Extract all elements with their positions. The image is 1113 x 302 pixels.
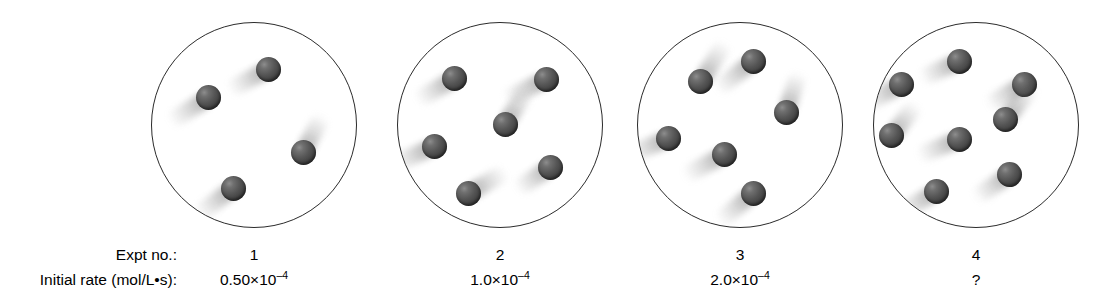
- vessel-interior: [398, 23, 602, 227]
- particle-sphere: [196, 85, 221, 110]
- particle-sphere: [493, 112, 518, 137]
- particle-sphere: [947, 127, 972, 152]
- reaction-vessel-3: [637, 22, 843, 228]
- figure-canvas: Expt no.: 1234 Initial rate (mol/L•s): 0…: [0, 0, 1113, 302]
- particle-sphere: [688, 69, 713, 94]
- reaction-vessel-1: [151, 22, 357, 228]
- rate-exponent: –4: [518, 269, 530, 281]
- reaction-vessel-4: [873, 22, 1079, 228]
- particle-sphere: [534, 67, 559, 92]
- particle-sphere: [924, 179, 949, 204]
- initial-rate-value: 1.0×10–4: [420, 268, 580, 292]
- reaction-vessel-2: [397, 22, 603, 228]
- particle-sphere: [947, 49, 972, 74]
- vessel-interior: [152, 23, 356, 227]
- initial-rate-row: Initial rate (mol/L•s): 0.50×10–41.0×10–…: [0, 268, 1113, 292]
- vessel-interior: [638, 23, 842, 227]
- particle-sphere: [422, 134, 447, 159]
- expt-no-value: 2: [420, 243, 580, 267]
- particle-sphere: [291, 140, 316, 165]
- initial-rate-value: ?: [896, 268, 1056, 292]
- particle-sphere: [993, 107, 1018, 132]
- particle-sphere: [456, 181, 481, 206]
- expt-no-row: Expt no.: 1234: [0, 243, 1113, 267]
- expt-no-row-label: Expt no.:: [116, 243, 177, 267]
- particle-sphere: [879, 123, 904, 148]
- vessel-interior: [874, 23, 1078, 227]
- particle-sphere: [997, 162, 1022, 187]
- initial-rate-value: 0.50×10–4: [174, 268, 334, 292]
- particle-sphere: [741, 181, 766, 206]
- particle-sphere: [712, 142, 737, 167]
- particle-sphere: [741, 49, 766, 74]
- rate-exponent: –4: [758, 269, 770, 281]
- particle-sphere: [442, 66, 467, 91]
- particle-sphere: [538, 155, 563, 180]
- particle-sphere: [221, 176, 246, 201]
- particle-sphere: [889, 72, 914, 97]
- rate-mantissa: 2.0×10: [710, 271, 758, 288]
- expt-no-value: 1: [174, 243, 334, 267]
- initial-rate-value: 2.0×10–4: [660, 268, 820, 292]
- rate-mantissa: 0.50×10: [220, 271, 276, 288]
- particle-sphere: [656, 126, 681, 151]
- initial-rate-row-label: Initial rate (mol/L•s):: [40, 268, 177, 292]
- particle-sphere: [256, 57, 281, 82]
- particle-sphere: [774, 100, 799, 125]
- rate-exponent: –4: [276, 269, 288, 281]
- rate-mantissa: 1.0×10: [470, 271, 518, 288]
- expt-no-value: 3: [660, 243, 820, 267]
- expt-no-value: 4: [896, 243, 1056, 267]
